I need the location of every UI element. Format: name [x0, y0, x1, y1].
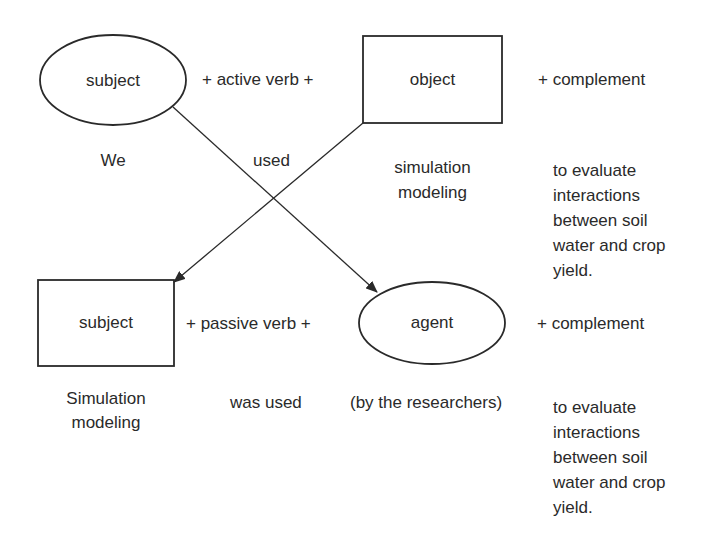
- arrow-object-to-subject: [174, 123, 363, 282]
- active-complement-line: interactions: [553, 183, 718, 208]
- active-example-verb: used: [253, 150, 290, 171]
- active-complement-connector: + complement: [538, 69, 645, 90]
- arrow-subject-to-agent: [173, 107, 377, 292]
- active-complement-line: yield.: [553, 258, 718, 283]
- passive-complement-line: interactions: [553, 420, 718, 445]
- passive-complement-connector: + complement: [537, 313, 644, 334]
- passive-complement-line: water and crop: [553, 470, 718, 495]
- passive-example-subject-line2: modeling: [46, 411, 166, 435]
- active-complement-line: water and crop: [553, 233, 718, 258]
- passive-agent-label: agent: [359, 312, 505, 333]
- passive-complement-line: to evaluate: [553, 395, 718, 420]
- active-object-label: object: [363, 69, 502, 90]
- active-subject-label: subject: [40, 70, 186, 91]
- passive-example-subject-line1: Simulation: [46, 387, 166, 411]
- active-example-subject: We: [80, 150, 146, 171]
- passive-example-agent: (by the researchers): [350, 392, 502, 413]
- active-complement-line: to evaluate: [553, 158, 718, 183]
- passive-verb-connector: + passive verb +: [186, 313, 311, 334]
- passive-subject-label: subject: [38, 312, 174, 333]
- passive-example-complement: to evaluate interactions between soil wa…: [553, 395, 718, 520]
- active-example-object-line1: simulation: [363, 155, 502, 180]
- passive-complement-line: between soil: [553, 445, 718, 470]
- active-complement-line: between soil: [553, 208, 718, 233]
- active-example-object-line2: modeling: [363, 180, 502, 205]
- passive-complement-line: yield.: [553, 495, 718, 520]
- passive-example-verb: was used: [230, 392, 302, 413]
- passive-example-subject: Simulation modeling: [46, 387, 166, 435]
- active-example-complement: to evaluate interactions between soil wa…: [553, 158, 718, 283]
- active-example-object: simulation modeling: [363, 155, 502, 205]
- active-verb-connector: + active verb +: [202, 69, 314, 90]
